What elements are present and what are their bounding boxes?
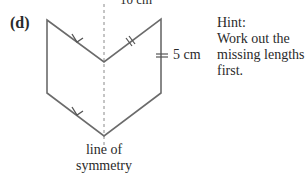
- hint-line: Work out the: [217, 31, 305, 47]
- hint-line: first.: [217, 63, 305, 79]
- hint-text: Hint: Work out the missing lengths first…: [217, 15, 305, 79]
- parallel-arrow-icon: [72, 34, 83, 42]
- side-dimension-label: 5 cm: [173, 47, 201, 63]
- equal-length-tick-icon: [156, 54, 168, 57]
- symmetry-label-line1: line of: [73, 142, 135, 158]
- symmetry-label-line2: symmetry: [73, 158, 135, 174]
- hint-title: Hint:: [217, 15, 305, 31]
- symmetry-label: line of symmetry: [73, 142, 135, 174]
- hint-line: missing lengths: [217, 47, 305, 63]
